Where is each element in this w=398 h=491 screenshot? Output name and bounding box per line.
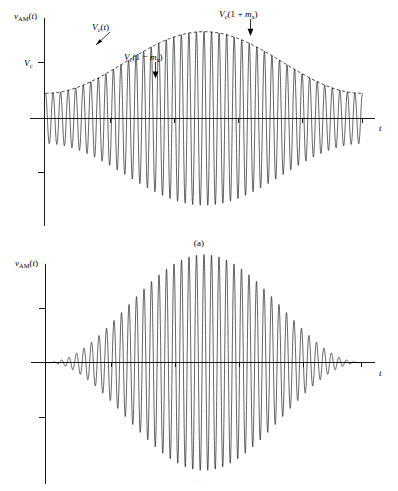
label-carrier-level: Vc [24, 58, 33, 69]
am-waveform-figure: vAM(t) Vc Vc(t) Vc(1 − ma) Vc(1 + ma) t … [0, 0, 398, 491]
annotation-envelope-a [96, 32, 110, 45]
label-envelope-max: Vc(1 + ma) [219, 9, 257, 20]
chart-svg-b: vAM(t) t [0, 252, 398, 491]
leader-arrowhead-envmax-a [248, 29, 254, 36]
y-axis-label-arg-b: (t) [29, 258, 38, 268]
panel-caption-b: (b) [0, 478, 398, 488]
y-axis-label-sub-b: AM [19, 262, 30, 269]
label-envelope: Vc(t) [92, 22, 109, 33]
label-envelope-min: Vc(1 − ma) [124, 52, 162, 63]
annotation-envmax-a [248, 19, 254, 36]
chart-svg-a: vAM(t) Vc Vc(t) Vc(1 − ma) Vc(1 + ma) t [0, 0, 398, 232]
chart-panel-b: vAM(t) t [0, 252, 398, 491]
y-axis-label-b: vAM(t) [15, 258, 38, 269]
envelope-upper-a [46, 32, 363, 94]
y-axis-label-a: vAM(t) [14, 11, 37, 22]
y-axis-label-arg-a: (t) [28, 11, 37, 21]
chart-panel-a: vAM(t) Vc Vc(t) Vc(1 − ma) Vc(1 + ma) t [0, 0, 398, 232]
x-axis-label-b: t [379, 368, 382, 378]
panel-caption-a: (a) [0, 238, 398, 248]
x-axis-label-a: t [379, 123, 382, 133]
y-axis-label-sub-a: AM [18, 15, 29, 22]
